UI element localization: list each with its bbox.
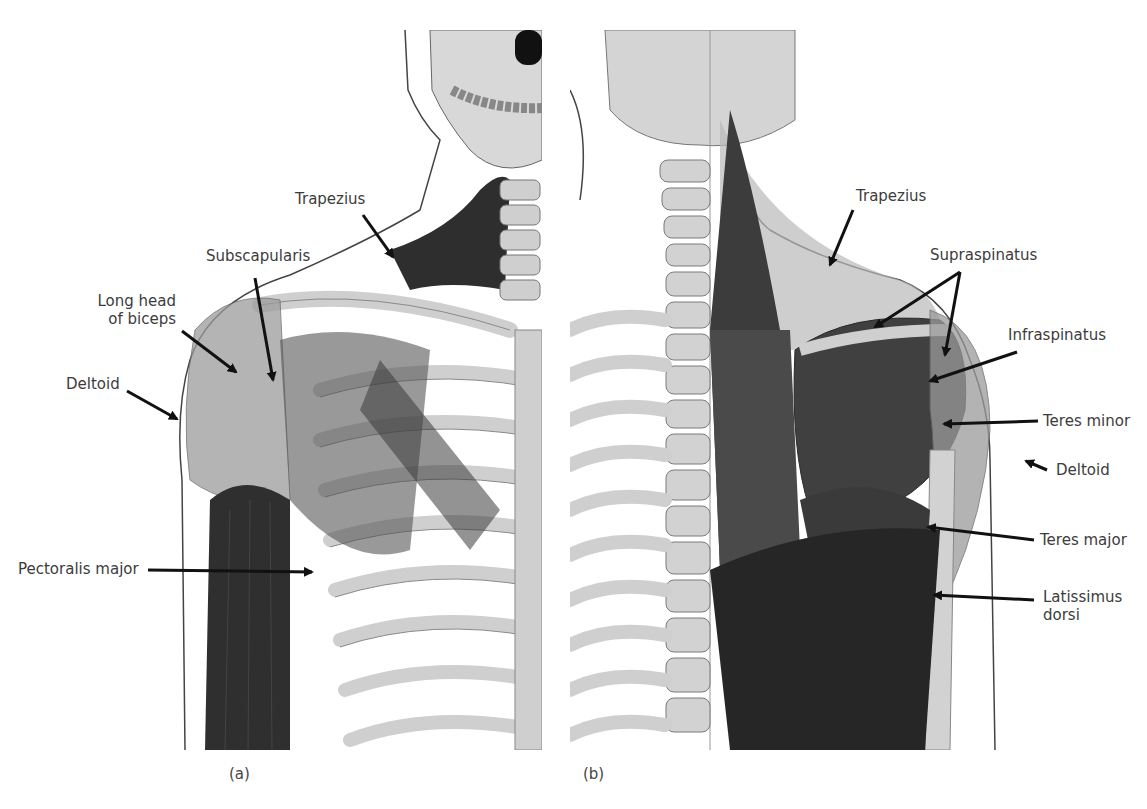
label-teres-major: Teres major: [1040, 531, 1127, 549]
label-latissimus-line-2: dorsi: [1043, 606, 1122, 624]
label-subscapularis: Subscapularis: [206, 247, 310, 265]
label-deltoid-a: Deltoid: [66, 375, 120, 393]
label-pectoralis-major: Pectoralis major: [18, 560, 139, 578]
panel-b-posterior-illustration: [570, 30, 1020, 750]
panel-a-anterior-illustration: [170, 30, 542, 750]
label-trapezius-a: Trapezius: [295, 190, 365, 208]
anatomy-figure: Trapezius Subscapularis Long head of bic…: [0, 0, 1147, 809]
label-supraspinatus: Supraspinatus: [930, 246, 1037, 264]
label-teres-minor: Teres minor: [1043, 412, 1130, 430]
posterior-shoulder-illustration: [570, 30, 1020, 750]
label-long-head-line-2: of biceps: [66, 310, 176, 328]
label-long-head-of-biceps: Long head of biceps: [66, 292, 176, 328]
arrow-deltoid-b: [1026, 461, 1047, 470]
caption-b: (b): [583, 765, 604, 783]
label-latissimus-dorsi: Latissimus dorsi: [1043, 588, 1122, 624]
anterior-shoulder-illustration: [170, 30, 542, 750]
label-trapezius-b: Trapezius: [856, 187, 926, 205]
label-infraspinatus: Infraspinatus: [1008, 326, 1106, 344]
label-latissimus-line-1: Latissimus: [1043, 588, 1122, 606]
label-long-head-line-1: Long head: [66, 292, 176, 310]
label-deltoid-b: Deltoid: [1056, 461, 1110, 479]
caption-a: (a): [229, 765, 250, 783]
